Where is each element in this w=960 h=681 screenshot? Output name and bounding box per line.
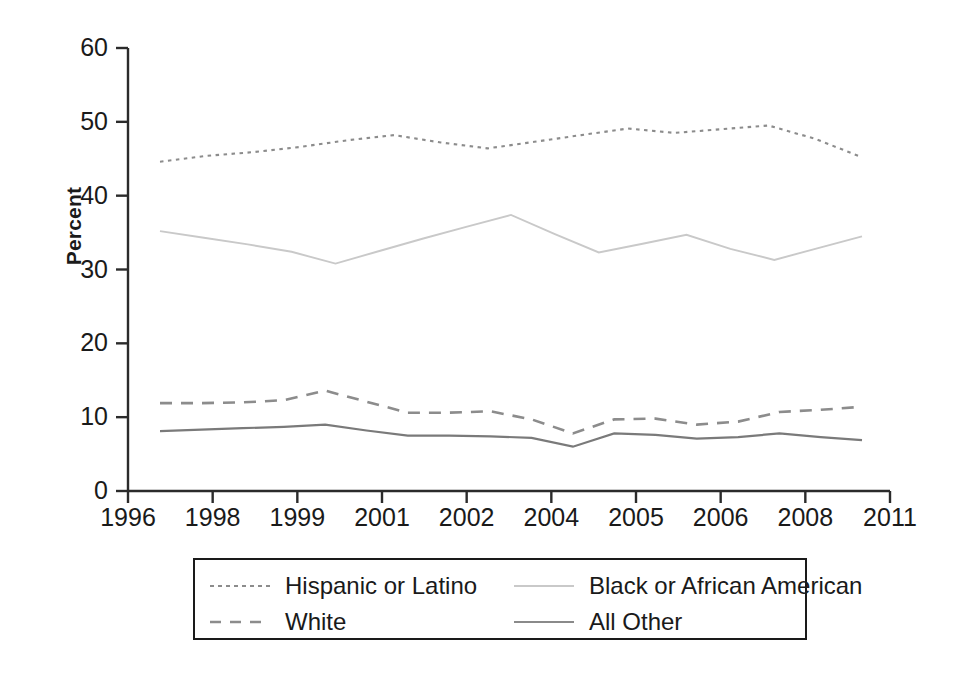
legend-label: White — [285, 610, 346, 634]
dashed-line-swatch — [209, 615, 271, 629]
chart-figure: Percent 0102030405060 199619981999200120… — [0, 0, 960, 681]
legend-item-white: White — [209, 607, 346, 637]
chart-legend: Hispanic or Latino Black or African Amer… — [193, 558, 807, 640]
light-solid-line-swatch — [513, 579, 575, 593]
series-line-hispanic-or-latino — [160, 126, 862, 162]
legend-label: Hispanic or Latino — [285, 574, 477, 598]
dotted-line-swatch — [209, 579, 271, 593]
series-line-black-or-african-american — [160, 215, 862, 264]
series-line-all-other — [160, 425, 862, 447]
legend-item-black-or-african-american: Black or African American — [513, 571, 862, 601]
legend-item-all-other: All Other — [513, 607, 682, 637]
legend-label: Black or African American — [589, 574, 862, 598]
solid-line-swatch — [513, 615, 575, 629]
legend-label: All Other — [589, 610, 682, 634]
legend-item-hispanic-or-latino: Hispanic or Latino — [209, 571, 477, 601]
